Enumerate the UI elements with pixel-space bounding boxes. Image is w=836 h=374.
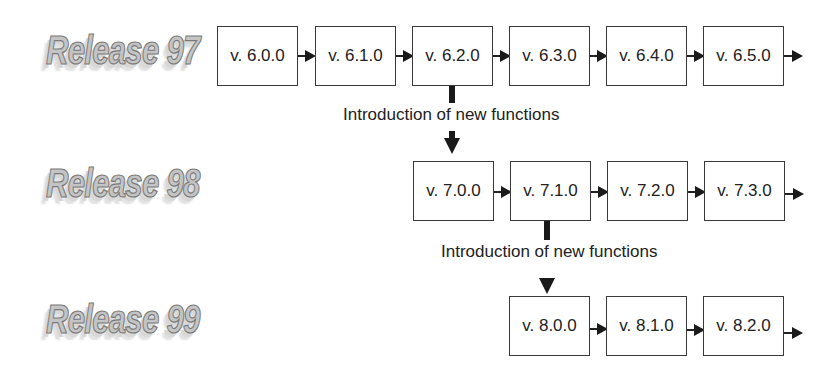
release-99-label: Release 99: [46, 299, 200, 339]
arrow-down-icon: [444, 138, 460, 154]
arrow-right-icon: [784, 50, 804, 62]
release-97-label: Release 97: [46, 30, 200, 70]
version-box-7-2-0: v. 7.2.0: [607, 161, 688, 221]
version-box-6-3-0: v. 6.3.0: [509, 26, 590, 86]
version-box-8-2-0: v. 8.2.0: [703, 296, 784, 356]
arrow-down-icon: [539, 278, 555, 294]
version-box-7-0-0: v. 7.0.0: [413, 161, 494, 221]
version-box-6-2-0: v. 6.2.0: [412, 26, 493, 86]
version-box-6-5-0: v. 6.5.0: [703, 26, 784, 86]
version-box-8-1-0: v. 8.1.0: [606, 296, 687, 356]
transition-stub: [544, 221, 550, 240]
transition-label-2: Introduction of new functions: [441, 242, 657, 262]
arrow-right-icon: [784, 327, 804, 339]
transition-label-1: Introduction of new functions: [343, 105, 559, 125]
version-box-8-0-0: v. 8.0.0: [509, 296, 590, 356]
transition-stub: [449, 86, 455, 103]
version-box-7-3-0: v. 7.3.0: [704, 161, 785, 221]
version-box-6-4-0: v. 6.4.0: [606, 26, 687, 86]
version-box-6-0-0: v. 6.0.0: [217, 26, 298, 86]
version-box-6-1-0: v. 6.1.0: [315, 26, 396, 86]
arrow-right-icon: [785, 188, 805, 200]
version-box-7-1-0: v. 7.1.0: [510, 161, 591, 221]
release-98-label: Release 98: [46, 163, 200, 203]
arrow-right-icon: [298, 50, 316, 62]
